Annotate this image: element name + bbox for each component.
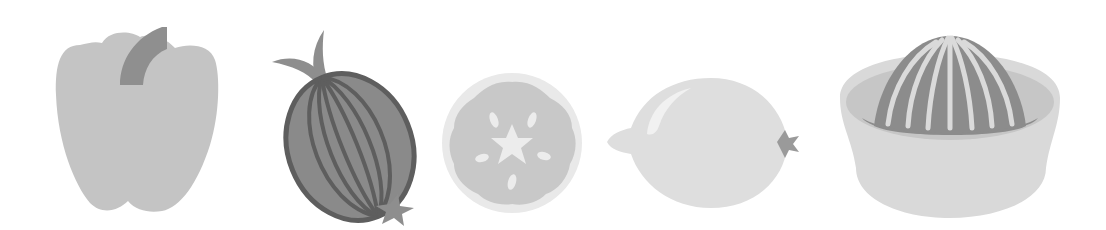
bell-pepper-icon — [50, 15, 230, 220]
citrus-slice-icon — [438, 68, 586, 218]
lemon-icon — [603, 72, 803, 214]
citrus-juicer-icon — [832, 28, 1068, 222]
illustration-canvas: Bell pepper Striped gooseberry — [0, 0, 1106, 230]
gooseberry-icon — [262, 22, 432, 227]
